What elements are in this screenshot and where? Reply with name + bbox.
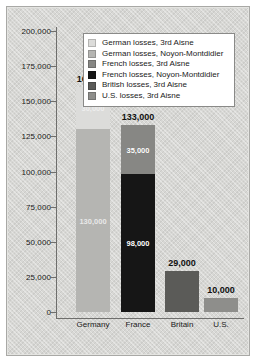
bar-segment-value-label: 98,000 xyxy=(121,239,155,248)
y-axis-tick-label: 175,000 xyxy=(7,62,51,71)
bar-segment[interactable]: 98,000 xyxy=(121,174,155,312)
bar-segment[interactable] xyxy=(204,298,238,312)
bar-segment-value-label: 35,000 xyxy=(121,145,155,154)
y-axis-tick-label: 0 xyxy=(7,308,51,317)
legend-item[interactable]: French losses, 3rd Aisne xyxy=(88,59,229,70)
bar-segment[interactable]: 35,000 xyxy=(121,125,155,174)
legend-swatch-icon xyxy=(88,60,96,68)
y-axis-tick xyxy=(50,101,57,102)
y-axis-tick-label: 100,000 xyxy=(7,167,51,176)
y-axis-tick xyxy=(50,312,57,313)
y-axis-tick-label: 150,000 xyxy=(7,97,51,106)
legend-swatch-icon xyxy=(88,92,96,100)
legend-item-label: British losses, 3rd Aisne xyxy=(102,80,187,91)
bar-group[interactable]: 35,00098,000133,000France xyxy=(121,125,155,312)
legend-item[interactable]: French losses, Noyon-Montdidier xyxy=(88,70,229,81)
legend-item[interactable]: British losses, 3rd Aisne xyxy=(88,80,229,91)
bar-group[interactable]: 30,000130,000160,000Germany xyxy=(76,87,110,312)
legend-swatch-icon xyxy=(88,39,96,47)
y-axis-tick xyxy=(50,172,57,173)
legend-swatch-icon xyxy=(88,82,96,90)
y-axis-line xyxy=(56,27,57,319)
y-axis-tick-label: 50,000 xyxy=(7,237,51,246)
legend-item-label: French losses, 3rd Aisne xyxy=(102,59,190,70)
y-axis-tick xyxy=(50,207,57,208)
legend-item[interactable]: German losses, Noyon-Montdidier xyxy=(88,49,229,60)
bar-group[interactable]: 10,000U.S. xyxy=(204,298,238,312)
bar-segment[interactable]: 130,000 xyxy=(76,129,110,312)
y-axis-tick xyxy=(50,66,57,67)
bar-total-label: 133,000 xyxy=(107,112,169,122)
legend-item-label: German losses, 3rd Aisne xyxy=(102,38,194,49)
legend-swatch-icon xyxy=(88,71,96,79)
legend-item[interactable]: German losses, 3rd Aisne xyxy=(88,38,229,49)
legend-item-label: U.S. losses, 3rd Aisne xyxy=(102,91,180,102)
bar-total-label: 10,000 xyxy=(190,285,252,295)
chart-plate: 200,000175,000150,000125,000100,00075,00… xyxy=(6,6,250,356)
y-axis-tick xyxy=(50,242,57,243)
y-axis-tick xyxy=(50,277,57,278)
y-axis-tick-label: 25,000 xyxy=(7,272,51,281)
bar-total-label: 29,000 xyxy=(151,258,213,268)
y-axis-tick-label: 125,000 xyxy=(7,132,51,141)
chart-legend: German losses, 3rd AisneGerman losses, N… xyxy=(83,33,235,107)
y-axis-tick-label: 75,000 xyxy=(7,202,51,211)
y-axis-tick xyxy=(50,136,57,137)
legend-item-label: German losses, Noyon-Montdidier xyxy=(102,49,223,60)
x-axis-category-label: U.S. xyxy=(190,320,252,329)
y-axis-labels: 200,000175,000150,000125,000100,00075,00… xyxy=(7,7,51,361)
legend-item-label: French losses, Noyon-Montdidier xyxy=(102,70,219,81)
y-axis-tick xyxy=(50,31,57,32)
legend-item[interactable]: U.S. losses, 3rd Aisne xyxy=(88,91,229,102)
y-axis-tick-label: 200,000 xyxy=(7,27,51,36)
x-axis-line xyxy=(56,318,244,319)
chart-figure: 200,000175,000150,000125,000100,00075,00… xyxy=(0,0,255,361)
bar-segment-value-label: 130,000 xyxy=(76,216,110,225)
legend-swatch-icon xyxy=(88,50,96,58)
